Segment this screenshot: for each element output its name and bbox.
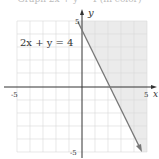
x-tick-pos5: 5 <box>144 91 148 99</box>
y-tick-pos5: 5 <box>75 18 79 26</box>
x-tick-neg5: -5 <box>11 91 18 99</box>
graph: y x 2x + y = 4 -5 5 5 -5 <box>0 0 159 159</box>
x-axis-label: x <box>153 89 158 99</box>
line-arrow-icon <box>136 144 142 152</box>
y-axis-arrow-icon <box>80 9 84 15</box>
y-tick-neg5: -5 <box>70 149 77 157</box>
equation-label: 2x + y = 4 <box>20 37 74 48</box>
y-axis-label: y <box>87 7 94 18</box>
